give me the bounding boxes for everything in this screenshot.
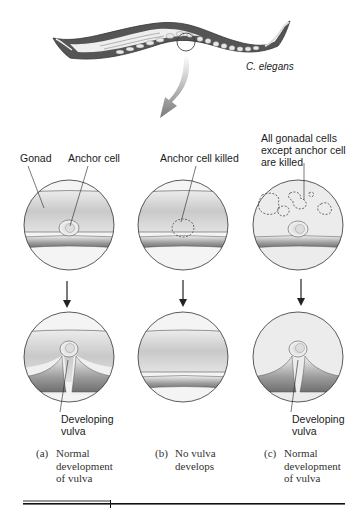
down-arrow-icon	[63, 279, 305, 308]
panel-c-before	[249, 163, 349, 275]
developing-vulva-label-c-line1: Developing	[292, 413, 345, 425]
panel-a-before	[20, 166, 120, 275]
caption-c-line2: development	[264, 460, 341, 473]
gonad-label: Gonad	[20, 152, 52, 164]
organism-label: C. elegans	[246, 61, 294, 73]
caption-c-line3: of vulva	[264, 472, 341, 485]
caption-b-letter: (b)	[155, 447, 175, 460]
caption-c: (c)Normal development of vulva	[264, 447, 341, 485]
caption-a-letter: (a)	[36, 447, 56, 460]
caption-b-line2: develops	[155, 460, 216, 473]
bottom-rule	[23, 500, 345, 508]
gonadal-cells-killed-label-line2: except anchor cell	[261, 144, 346, 156]
gonadal-cells-killed-label-line3: are killed	[261, 156, 303, 168]
caption-c-line1: Normal	[284, 447, 318, 459]
anchor-cell-killed-label: Anchor cell killed	[160, 152, 239, 164]
caption-a-line2: development	[36, 460, 113, 473]
panel-b-after	[134, 310, 234, 410]
gonadal-cells-killed-label-line1: All gonadal cells	[261, 132, 337, 144]
panel-c-after	[249, 310, 349, 412]
developing-vulva-label-a-line2: vulva	[61, 425, 86, 437]
developing-vulva-label-a-line1: Developing	[61, 413, 114, 425]
panel-a-after	[20, 310, 120, 412]
caption-a-line1: Normal	[56, 447, 90, 459]
caption-a-line3: of vulva	[36, 472, 113, 485]
caption-a: (a)Normal development of vulva	[36, 447, 113, 485]
caption-b-line1: No vulva	[175, 447, 216, 459]
caption-b: (b)No vulva develops	[155, 447, 216, 472]
panel-b-before	[134, 166, 234, 275]
caption-c-letter: (c)	[264, 447, 284, 460]
magnify-arrow-icon	[160, 55, 189, 118]
worm-illustration	[53, 21, 290, 59]
developing-vulva-label-c-line2: vulva	[292, 425, 317, 437]
anchor-cell-label: Anchor cell	[68, 152, 120, 164]
